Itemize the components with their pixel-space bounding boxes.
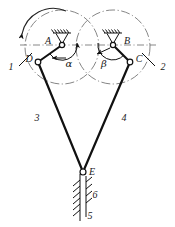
connecting-rod-3-DE: [38, 62, 83, 172]
label-angle-alpha: α: [66, 58, 73, 69]
pin-joint-d: [35, 59, 41, 65]
rotation-direction-arrow: [22, 8, 66, 34]
label-link-6: 6: [93, 189, 98, 200]
leader-tick-link-2: [142, 53, 155, 66]
label-link-4: 4: [122, 112, 127, 123]
pin-joint-c: [127, 59, 133, 65]
mechanism-diagram: A B D C E α β 1 2 3 4 6 5: [0, 0, 175, 227]
label-link-2: 2: [161, 61, 166, 72]
pivot-joint-b: [110, 42, 115, 47]
label-link-3: 3: [34, 112, 40, 123]
label-pivot-a: A: [44, 35, 52, 46]
label-joint-c: C: [136, 53, 143, 64]
label-link-1: 1: [9, 61, 14, 72]
label-joint-d: D: [24, 53, 33, 64]
diagram-canvas: A B D C E α β 1 2 3 4 6 5: [0, 0, 175, 227]
label-angle-beta: β: [100, 58, 107, 69]
pin-joint-e: [80, 169, 86, 175]
pivot-joint-a: [59, 42, 64, 47]
label-pivot-b: B: [124, 35, 130, 46]
ground-support-b: [103, 30, 123, 45]
label-link-5: 5: [88, 210, 93, 221]
ground-support-a: [52, 30, 72, 45]
label-joint-e: E: [88, 166, 95, 177]
